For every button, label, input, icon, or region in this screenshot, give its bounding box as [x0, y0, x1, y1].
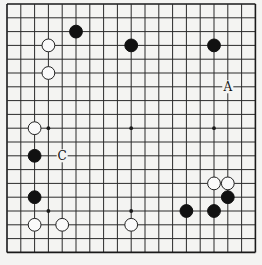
white-stone [28, 122, 41, 135]
black-stone [125, 39, 138, 52]
star-point [129, 126, 133, 130]
black-stone [180, 205, 193, 218]
star-point [129, 209, 133, 213]
point-label-c: C [57, 149, 68, 163]
white-stone [42, 67, 55, 80]
label-text: C [58, 149, 67, 163]
white-stone [28, 218, 41, 231]
black-stone [208, 39, 221, 52]
star-point [212, 126, 216, 130]
black-stone [28, 149, 41, 162]
white-stone [42, 39, 55, 52]
white-stone [221, 177, 234, 190]
black-stone [208, 205, 221, 218]
white-stone [56, 218, 69, 231]
white-stone [125, 218, 138, 231]
star-point [47, 126, 51, 130]
black-stone [70, 25, 83, 38]
label-text: A [222, 80, 232, 94]
go-board: AC [0, 0, 262, 265]
star-point [47, 209, 51, 213]
black-stone [28, 191, 41, 204]
white-stone [208, 177, 221, 190]
point-label-a: A [222, 80, 233, 94]
black-stone [221, 191, 234, 204]
